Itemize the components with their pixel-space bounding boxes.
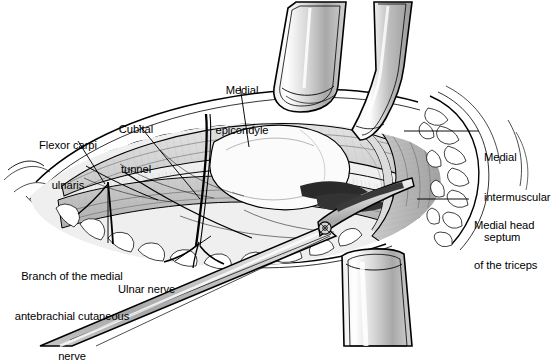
label-medial-epicondyle: Medial epicondyle — [196, 57, 288, 151]
label-ulnar-nerve: Ulnar nerve — [118, 256, 198, 310]
label-cubital-tunnel: Cubital tunnel — [104, 96, 168, 190]
label-line: tunnel — [104, 163, 168, 176]
label-line: of the triceps — [474, 259, 551, 272]
label-line: epicondyle — [196, 124, 288, 137]
label-line: Medial head — [474, 219, 551, 232]
retractor-blade-upper-right[interactable] — [352, 2, 412, 140]
label-line: Medial — [196, 84, 288, 97]
label-line: nerve — [4, 350, 140, 363]
label-line: Ulnar nerve — [118, 283, 198, 296]
retractor-blade-lower[interactable] — [342, 249, 412, 346]
label-line: Cubital — [104, 123, 168, 136]
label-line: Medial — [484, 151, 551, 164]
label-line: antebrachial cutaneous — [4, 310, 140, 323]
label-medial-head-of-the-triceps: Medial head of the triceps — [474, 192, 551, 286]
